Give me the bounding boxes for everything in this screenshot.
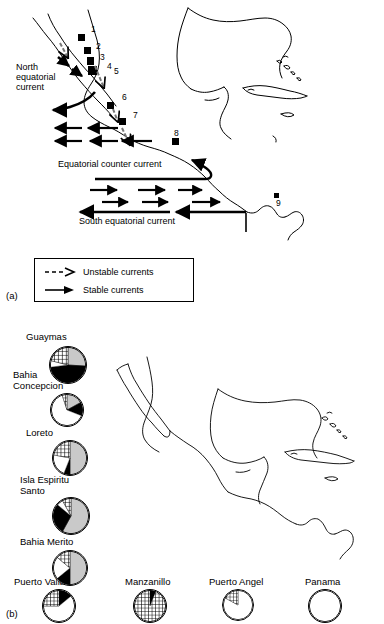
pie-chart-loreto	[52, 440, 88, 476]
panel-a-currents-map: North equatorial current Equatorial coun…	[0, 0, 384, 312]
pie-chart-manzanillo	[133, 589, 167, 623]
pie-chart-bahia-merito	[52, 550, 88, 586]
unstable-current-arrows	[60, 43, 130, 145]
pie-chart-guaymas	[49, 346, 87, 384]
site-label-panama: Panama	[305, 577, 340, 588]
site-number-5: 5	[114, 66, 119, 76]
coastline-paths	[33, 8, 307, 240]
legend-item-unstable: Unstable currents	[43, 264, 154, 280]
north-equatorial-arrow-rows	[55, 128, 152, 141]
coastline-paths-b	[117, 357, 354, 559]
solid-arrow-icon	[43, 285, 77, 295]
pie-chart-puerto-vallarta	[42, 589, 76, 623]
site-number-3: 3	[100, 52, 105, 62]
north-equatorial-current-arrow	[53, 92, 95, 110]
panel-a-label: (a)	[6, 290, 18, 301]
site-label-loreto: Loreto	[26, 428, 53, 439]
sampling-site-markers	[78, 34, 279, 198]
site-label-guaymas: Guaymas	[26, 332, 67, 343]
legend-label-unstable: Unstable currents	[83, 267, 154, 277]
pie-chart-panama	[308, 589, 342, 623]
dashed-arrow-icon	[43, 267, 77, 277]
legend-item-stable: Stable currents	[43, 282, 144, 298]
pie-chart-isla-espiritu-santo	[52, 497, 90, 535]
equatorial-counter-current-label: Equatorial counter current	[58, 159, 162, 169]
counter-current-arrow-rows	[90, 190, 220, 202]
coastal-stable-arrows	[58, 57, 82, 76]
panel-b-haplotype-map: HAPLOTYPES 04 – 13 01 02 03 Guaymas Bahi…	[0, 312, 384, 624]
site-number-1: 1	[91, 24, 96, 34]
panel-b-label: (b)	[6, 608, 18, 619]
site-number-7: 7	[133, 110, 138, 120]
site-label-bahia-merito: Bahia Merito	[20, 537, 73, 548]
site-label-isla-espiritu-santo: Isla Espiritu Santo	[20, 475, 69, 496]
site-number-6: 6	[122, 92, 127, 102]
site-number-4: 4	[107, 61, 112, 71]
site-number-2: 2	[96, 41, 101, 51]
site-label-manzanillo: Manzanillo	[125, 577, 170, 588]
north-equatorial-current-label: North equatorial current	[16, 62, 56, 92]
currents-legend-box: Unstable currents Stable currents	[34, 258, 194, 302]
site-number-8: 8	[174, 128, 179, 138]
pie-chart-bahia-concepcion	[50, 393, 84, 427]
pie-chart-puerto-angel	[222, 589, 254, 621]
site-label-puerto-angel: Puerto Angel	[209, 577, 263, 588]
site-number-9: 9	[276, 198, 281, 208]
south-equatorial-current-label: South equatorial current	[79, 216, 175, 226]
legend-label-stable: Stable currents	[83, 285, 144, 295]
